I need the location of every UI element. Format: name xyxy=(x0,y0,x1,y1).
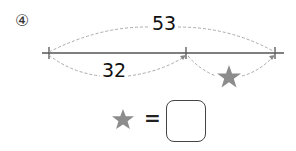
part-label: 32 xyxy=(102,61,126,80)
answer-box[interactable] xyxy=(166,100,206,142)
arrow-head-icon xyxy=(269,55,275,60)
star-icon xyxy=(112,108,134,130)
problem-number: ④ xyxy=(15,13,29,29)
star-icon xyxy=(217,65,241,88)
total-label: 53 xyxy=(152,14,176,33)
equals-sign: = xyxy=(144,108,161,128)
